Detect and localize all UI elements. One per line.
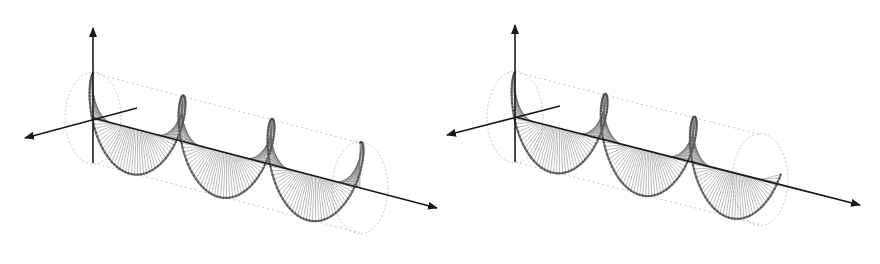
- propagation-axis: [515, 117, 860, 205]
- helix-figure-right: [440, 0, 880, 264]
- helix-rim: [90, 73, 364, 221]
- left-circular-polarization-helix: [0, 0, 440, 264]
- horizontal-axis: [25, 108, 137, 138]
- field-vectors: [89, 72, 365, 222]
- helix-figure-left: [0, 0, 440, 264]
- polarization-diagram: [0, 0, 880, 264]
- propagation-axis: [93, 118, 437, 208]
- right-circular-polarization-helix: [440, 0, 880, 264]
